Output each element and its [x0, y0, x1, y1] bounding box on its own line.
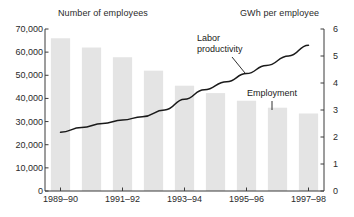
right-tick-label: 6: [333, 24, 338, 34]
bar-1996–97: [268, 108, 287, 191]
x-tick-label: 1997–98: [291, 194, 326, 204]
bar-1989–90: [51, 38, 70, 191]
annotation-employment: Employment: [247, 88, 297, 99]
bar-1990–91: [82, 48, 101, 191]
right-tick-label: 3: [333, 105, 338, 115]
chart-container: Number of employees GWh per employee 010…: [0, 0, 354, 217]
plot-area: [0, 0, 354, 217]
left-tick-label: 50,000: [15, 70, 43, 80]
x-tick-label: 1995–96: [229, 194, 264, 204]
left-axis-tick-labels: 010,00020,00030,00040,00050,00060,00070,…: [0, 0, 43, 217]
annotation-labor-productivity: Laborproductivity: [197, 33, 243, 55]
left-tick-label: 70,000: [15, 24, 43, 34]
x-tick-label: 1993–94: [167, 194, 202, 204]
right-tick-label: 2: [333, 132, 338, 142]
bar-1994–95: [206, 93, 225, 191]
right-tick-label: 0: [333, 186, 338, 196]
left-tick-label: 60,000: [15, 47, 43, 57]
bar-1997–98: [299, 113, 318, 191]
left-tick-label: 10,000: [15, 163, 43, 173]
left-tick-label: 20,000: [15, 140, 43, 150]
right-tick-label: 4: [333, 78, 338, 88]
right-axis-tick-labels: 0123456: [327, 0, 354, 217]
annotation-line: Labor: [197, 33, 243, 44]
annotation-line: productivity: [197, 44, 243, 55]
x-tick-label: 1989–90: [43, 194, 78, 204]
bar-1995–96: [237, 101, 256, 191]
right-tick-label: 5: [333, 51, 338, 61]
right-tick-label: 1: [333, 159, 338, 169]
x-tick-label: 1991–92: [105, 194, 140, 204]
bar-1991–92: [113, 57, 132, 191]
left-tick-label: 40,000: [15, 93, 43, 103]
labor-productivity-leader-line: [232, 57, 245, 73]
bar-1992–93: [144, 71, 163, 191]
left-tick-label: 30,000: [15, 117, 43, 127]
